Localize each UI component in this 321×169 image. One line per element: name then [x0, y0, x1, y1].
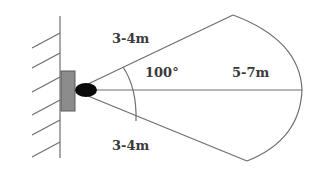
hatch-line: [32, 33, 60, 48]
hatch-line: [32, 142, 60, 157]
hatch-line: [32, 77, 60, 92]
sensor-mount-plate: [61, 71, 75, 111]
detection-range-diagram: 3-4m 100° 5-7m 3-4m: [0, 0, 321, 169]
lower-range-label: 3-4m: [112, 138, 149, 153]
far-range-arc: [233, 15, 302, 161]
upper-range-label: 3-4m: [112, 31, 149, 46]
hatch-line: [32, 53, 60, 68]
wall: [32, 16, 60, 158]
hatch-line: [32, 100, 60, 115]
angle-label: 100°: [145, 65, 179, 80]
sensor-lens: [75, 83, 97, 97]
center-range-label: 5-7m: [232, 65, 269, 80]
hatch-line: [32, 120, 60, 135]
